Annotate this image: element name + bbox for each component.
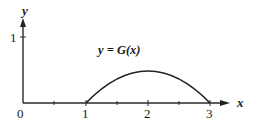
x-axis-arrowhead-icon xyxy=(220,100,230,106)
curve-G xyxy=(86,71,210,103)
x-tick-label-2: 2 xyxy=(144,106,151,121)
x-tick-label-1: 1 xyxy=(82,106,89,121)
y-tick-label-1: 1 xyxy=(10,30,17,45)
x-axis-label: x xyxy=(236,95,244,110)
x-tick-label-3: 3 xyxy=(206,106,213,121)
y-axis-arrowhead-icon xyxy=(20,18,26,27)
y-axis-label: y xyxy=(20,3,28,18)
graph-of-G: y 1 0 1 2 3 x y = G(x) xyxy=(0,0,258,123)
curve-label: y = G(x) xyxy=(96,43,141,57)
origin-label: 0 xyxy=(17,106,24,121)
